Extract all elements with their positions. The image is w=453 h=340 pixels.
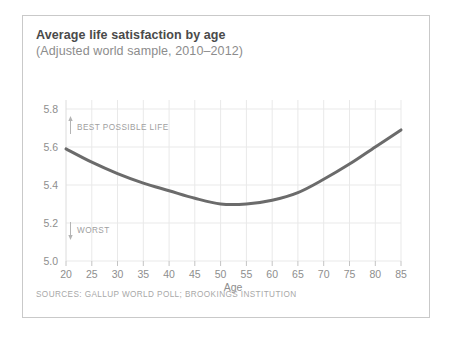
x-tick-label: 30 — [112, 268, 124, 280]
chart-subtitle: (Adjusted world sample, 2010–2012) — [36, 43, 416, 59]
x-tick-label: 55 — [241, 268, 253, 280]
source-note: SOURCES: GALLUP WORLD POLL; BROOKINGS IN… — [36, 290, 297, 299]
x-tick-label: 35 — [137, 268, 149, 280]
x-tick-label: 80 — [369, 268, 381, 280]
x-tick-label: 50 — [215, 268, 227, 280]
y-tick-label: 5.4 — [43, 179, 58, 191]
x-tick-label: 25 — [86, 268, 98, 280]
screenshot-root: Average life satisfaction by age (Adjust… — [0, 0, 453, 340]
plot-area: 5.8 5.6 5.4 5.2 5.0 — [23, 76, 429, 281]
y-tick-label: 5.2 — [43, 217, 58, 229]
annotation-worst: WORST — [68, 222, 109, 240]
y-axis-ticks: 5.8 5.6 5.4 5.2 5.0 — [43, 103, 58, 267]
x-tick-label: 45 — [189, 268, 201, 280]
page-title: Average life satisfaction by age — [36, 27, 416, 43]
annotation-bottom-label: WORST — [77, 226, 110, 235]
x-tick-label: 85 — [395, 268, 407, 280]
y-tick-label: 5.6 — [43, 141, 58, 153]
x-tick-label: 40 — [163, 268, 175, 280]
x-tick-label: 70 — [318, 268, 330, 280]
x-tick-label: 20 — [60, 268, 72, 280]
x-tick-label: 65 — [292, 268, 304, 280]
chart-header: Average life satisfaction by age (Adjust… — [36, 27, 416, 59]
x-axis-tickmarks — [66, 261, 401, 266]
data-series-line — [66, 130, 401, 205]
annotation-best-possible-life: BEST POSSIBLE LIFE — [68, 116, 168, 134]
x-tick-label: 60 — [266, 268, 278, 280]
line-chart-svg: 5.8 5.6 5.4 5.2 5.0 — [23, 76, 429, 281]
y-tick-label: 5.0 — [43, 255, 58, 267]
x-tick-label: 75 — [344, 268, 356, 280]
annotation-top-label: BEST POSSIBLE LIFE — [77, 123, 169, 132]
y-tick-label: 5.8 — [43, 103, 58, 115]
chart-card: Average life satisfaction by age (Adjust… — [22, 15, 430, 318]
